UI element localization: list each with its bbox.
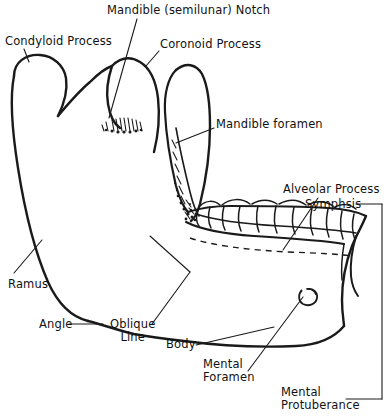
leader-oblique-line-2 [150, 236, 190, 272]
mandible-diagram-page: Mandible (semilunar) Notch Condyloid Pro… [0, 0, 390, 417]
tooth-crown [279, 200, 306, 205]
label-mental-foramen: Mental Foramen [203, 358, 255, 383]
leader-mental-foramen [248, 297, 303, 371]
coronoid-process-outline [107, 66, 120, 128]
label-angle: Angle [39, 318, 72, 331]
tooth [311, 208, 313, 235]
label-mandible-foramen: Mandible foramen [216, 118, 323, 131]
coronoid-process-anterior [112, 59, 159, 152]
tooth [293, 207, 295, 234]
tooth [239, 206, 241, 231]
label-mental-protuberance: Mental Protuberance [281, 386, 360, 411]
label-ramus: Ramus [8, 278, 48, 291]
leader-oblique-line [152, 272, 190, 324]
alveolar-dashed-line [190, 238, 352, 256]
anterior-ramus-border [176, 65, 210, 221]
label-symphsis: Symphsis [305, 198, 361, 211]
label-coronoid-process: Coronoid Process [160, 38, 261, 51]
tooth [197, 210, 199, 226]
tooth [275, 206, 277, 233]
leader-mandible-notch [109, 19, 137, 118]
mental-foramen-opening [299, 289, 317, 305]
leader-mandible-foramen [176, 128, 214, 143]
tooth-crown [252, 200, 277, 204]
tooth [353, 214, 355, 240]
tooth-crown [222, 200, 250, 205]
tooth [341, 211, 343, 239]
tooth-crown [200, 201, 220, 206]
tooth [327, 209, 329, 237]
leader-body [196, 327, 274, 345]
label-mandible-notch: Mandible (semilunar) Notch [107, 4, 270, 17]
label-alveolar-process: Alveolar Process [283, 183, 380, 196]
label-body: Body [166, 338, 196, 351]
tooth [257, 206, 259, 232]
label-oblique-line: Oblique Line [110, 318, 155, 343]
leader-coronoid-process [146, 51, 159, 66]
label-condyloid-process: Condyloid Process [5, 35, 112, 48]
condyloid-process-outline [14, 55, 67, 116]
tooth [223, 206, 225, 230]
